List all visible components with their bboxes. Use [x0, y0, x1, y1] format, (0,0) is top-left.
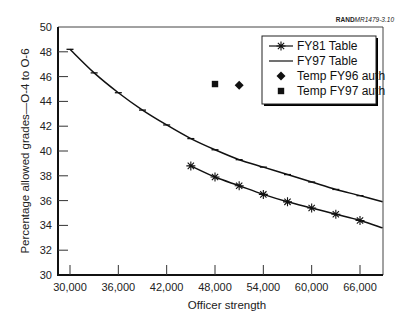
y-tick-label: 50 — [40, 21, 52, 33]
x-tick-label: 60,000 — [295, 281, 329, 293]
y-tick-label: 32 — [40, 244, 52, 256]
x-tick-label: 36,000 — [102, 281, 136, 293]
x-axis-label: Officer strength — [188, 299, 266, 311]
x-axis: 30,00036,00042,00048,00054,00060,00066,0… — [53, 265, 377, 293]
asterisk-marker — [356, 216, 365, 225]
chart: RANDMR1479-3.10 3032343638404244464850 3… — [0, 0, 404, 321]
x-tick-label: 42,000 — [150, 281, 184, 293]
y-tick-label: 42 — [40, 120, 52, 132]
x-tick-label: 48,000 — [198, 281, 232, 293]
y-tick-label: 48 — [40, 46, 52, 58]
asterisk-marker — [283, 197, 292, 206]
square-marker — [278, 88, 284, 94]
y-tick-label: 30 — [40, 269, 52, 281]
y-tick-label: 44 — [40, 95, 52, 107]
figure-credit: RANDMR1479-3.10 — [336, 16, 395, 23]
y-tick-label: 40 — [40, 145, 52, 157]
y-axis: 3032343638404244464850 — [40, 21, 68, 281]
y-tick-label: 34 — [40, 219, 52, 231]
asterisk-marker — [277, 42, 286, 51]
asterisk-marker — [186, 161, 195, 170]
legend-label: FY81 Table — [297, 39, 358, 53]
y-axis-label: Percentage allowed grades—O-4 to O-6 — [19, 48, 31, 253]
x-tick-label: 66,000 — [343, 281, 377, 293]
asterisk-marker — [331, 210, 340, 219]
series-temp-fy96-auth — [235, 81, 244, 90]
series-temp-fy97-auth — [212, 81, 218, 87]
y-tick-label: 46 — [40, 71, 52, 83]
square-marker — [212, 81, 218, 87]
asterisk-marker — [235, 181, 244, 190]
legend-label: Temp FY97 auth — [297, 84, 385, 98]
x-tick-label: 30,000 — [53, 281, 87, 293]
legend-label: Temp FY96 auth — [297, 69, 385, 83]
diamond-marker — [235, 81, 244, 90]
legend-label: FY97 Table — [297, 54, 358, 68]
x-tick-label: 54,000 — [247, 281, 281, 293]
legend: FY81 TableFY97 TableTemp FY96 authTemp F… — [262, 36, 385, 106]
y-tick-label: 36 — [40, 195, 52, 207]
asterisk-marker — [211, 173, 220, 182]
asterisk-marker — [259, 190, 268, 199]
y-tick-label: 38 — [40, 170, 52, 182]
asterisk-marker — [307, 204, 316, 213]
